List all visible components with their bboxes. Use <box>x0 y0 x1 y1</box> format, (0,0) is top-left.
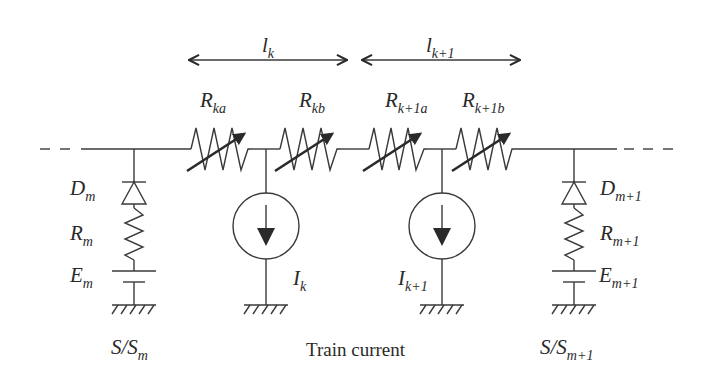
arrow-down-icon <box>257 228 275 246</box>
label-rka: Rka <box>199 88 226 116</box>
caption-train-current: Train current <box>306 339 406 360</box>
substation-m1: Dm+1 Rm+1 Em+1 S/Sm+1 <box>540 149 642 363</box>
arrow-down-icon <box>433 228 451 246</box>
caption-ssm1: S/Sm+1 <box>540 335 593 363</box>
span-label-lk: lk <box>262 33 275 61</box>
ground-icon <box>112 305 156 314</box>
span-label-lk1: lk+1 <box>426 33 455 61</box>
circuit-diagram: lk lk+1 Rka Rkb Rk+1a Rk+1b <box>0 0 711 384</box>
variable-resistor-rk1b: Rk+1b <box>452 88 516 171</box>
label-rm: Rm <box>69 221 93 249</box>
current-source-ik: Ik <box>233 149 307 314</box>
label-ik: Ik <box>292 266 307 294</box>
diode-triangle <box>122 182 146 204</box>
ground-icon <box>244 305 288 314</box>
label-em: Em <box>69 263 93 291</box>
span-arrow-lk1: lk+1 <box>362 33 520 61</box>
current-source-ik1: Ik+1 <box>397 149 475 314</box>
variable-resistor-rkb: Rkb <box>275 88 341 171</box>
variable-resistor-rka: Rka <box>187 88 252 171</box>
label-rkb: Rkb <box>298 88 325 116</box>
label-rk1a: Rk+1a <box>384 88 428 116</box>
diode-triangle <box>562 182 586 204</box>
resistor-rm1 <box>565 208 583 260</box>
label-rm1: Rm+1 <box>599 221 639 249</box>
caption-ssm: S/Sm <box>111 335 148 363</box>
resistor-rm <box>125 208 143 260</box>
label-dm1: Dm+1 <box>599 176 642 204</box>
ground-icon <box>552 305 596 314</box>
substation-m: Dm Rm Em S/Sm <box>69 149 156 363</box>
label-dm: Dm <box>69 176 95 204</box>
label-ik1: Ik+1 <box>397 266 428 294</box>
ground-icon <box>420 305 464 314</box>
span-arrow-lk: lk <box>189 33 347 61</box>
label-rk1b: Rk+1b <box>461 88 505 116</box>
label-em1: Em+1 <box>598 263 638 291</box>
variable-resistor-rk1a: Rk+1a <box>363 88 428 171</box>
